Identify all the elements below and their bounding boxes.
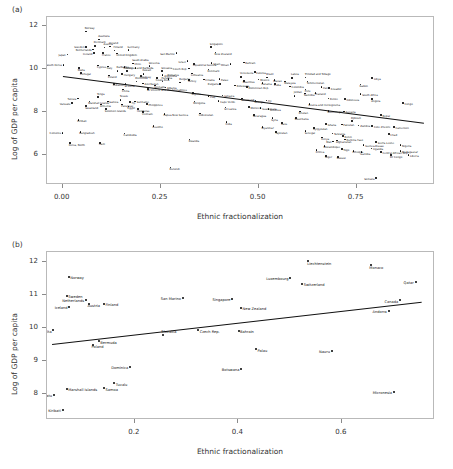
point-label: Fiji (132, 103, 135, 106)
data-point (162, 74, 164, 76)
x-tick-label: 0.00 (44, 193, 80, 201)
data-point (71, 102, 73, 104)
point-label: Pakistan (343, 125, 354, 128)
data-point (375, 177, 377, 179)
point-label: France (102, 55, 111, 58)
point-label: Bulgaria (208, 84, 219, 87)
data-point (93, 52, 95, 54)
data-point (371, 77, 373, 79)
data-point (53, 394, 55, 396)
point-label: Iran (323, 88, 328, 91)
data-point (104, 47, 106, 49)
panel-b: (b) Log of GDP per capita NorwayLiechten… (0, 235, 453, 469)
data-point (331, 350, 333, 352)
data-point (128, 49, 130, 51)
point-label: Eritrea (316, 152, 325, 155)
point-label: Lebanon (113, 85, 124, 88)
data-point (109, 46, 111, 48)
y-tick-label: 11 (20, 290, 38, 298)
data-point (117, 70, 119, 72)
panel-a-tag: (a) (12, 5, 22, 14)
data-point (67, 54, 69, 56)
point-label: Mali (326, 142, 331, 145)
data-point (146, 103, 148, 105)
point-label: Kyrgyzstan (313, 129, 327, 132)
data-point (52, 329, 54, 331)
panel-b-tag: (b) (12, 240, 23, 249)
point-label: Sierra Leone (378, 143, 394, 146)
data-point (179, 82, 181, 84)
data-point (63, 64, 65, 66)
point-label: Luxembourg (266, 278, 288, 282)
data-point (240, 368, 242, 370)
point-label: New Zealand (243, 308, 267, 312)
point-label: Switzerland (304, 284, 325, 288)
point-label: Lithuania (191, 75, 203, 78)
data-point (187, 60, 189, 62)
point-label: Ghana (328, 125, 336, 128)
point-label: Moldova (270, 110, 281, 113)
point-label: Bangladesh (79, 133, 94, 136)
data-point (325, 123, 327, 125)
data-point (182, 297, 184, 299)
y-tick-label: 8 (20, 389, 38, 397)
point-label: San Marino (160, 54, 175, 57)
data-point (294, 95, 296, 97)
point-label: Mongolia (193, 103, 205, 106)
point-label: Brazil (266, 74, 273, 77)
point-label: Haiti (99, 144, 105, 147)
y-tick-mark (42, 360, 46, 361)
x-tick-mark (160, 184, 161, 188)
point-label: Comoros (50, 133, 61, 136)
point-label: Australia (98, 36, 109, 39)
data-point (246, 86, 248, 88)
point-label: Panama (262, 84, 272, 87)
point-label: Thailand (314, 94, 325, 97)
y-tick-label: 6 (20, 150, 38, 158)
y-tick-mark (42, 294, 46, 295)
data-point (393, 126, 395, 128)
point-label: Myanmar (262, 128, 274, 131)
point-label: South Korea (47, 65, 62, 68)
point-label: Tuvalu (120, 96, 128, 99)
data-point (97, 96, 99, 98)
data-point (230, 63, 232, 65)
panel-a: (a) Log of GDP per capita NorwayAustrali… (0, 0, 453, 234)
data-point (136, 81, 138, 83)
data-point (332, 141, 334, 143)
y-tick-label: 12 (20, 257, 38, 265)
point-label: Austria (87, 305, 100, 309)
data-point (121, 73, 123, 75)
point-label: Cyprus (97, 67, 106, 70)
point-label: Djibouti (351, 118, 361, 121)
point-label: Swaziland (85, 108, 98, 111)
data-point (161, 70, 163, 72)
x-tick-label: 0.2 (116, 428, 152, 436)
data-point (266, 100, 268, 102)
y-tick-label: 9 (20, 356, 38, 364)
point-label: Namibia (304, 95, 315, 98)
data-point (342, 135, 344, 137)
point-label: Indonesia (346, 100, 359, 103)
point-label: Malta (47, 331, 52, 335)
data-point (240, 76, 242, 78)
point-label: Qatar (404, 282, 414, 286)
point-label: Portugal (80, 74, 91, 77)
point-label: Angola (371, 101, 380, 104)
point-label: Vanuatu (60, 104, 71, 107)
point-label: Israel (179, 62, 186, 65)
point-label: Senegal (305, 133, 315, 136)
point-label: Dominican Rep. (248, 88, 268, 91)
x-tick-mark (62, 184, 63, 188)
point-label: Nigeria (402, 146, 411, 149)
data-point (85, 31, 87, 33)
data-point (126, 70, 128, 72)
data-point (120, 99, 122, 101)
point-label: Lesotho (153, 127, 163, 130)
data-point (68, 306, 70, 308)
point-label: Korea, North (69, 145, 85, 148)
data-point (77, 98, 79, 100)
point-label: Dominica (135, 78, 147, 81)
panel-b-scatter-points: NorwayLiechtensteinMonacoLuxembourgSwitz… (47, 252, 433, 418)
point-label: Tuvalu (116, 384, 128, 388)
